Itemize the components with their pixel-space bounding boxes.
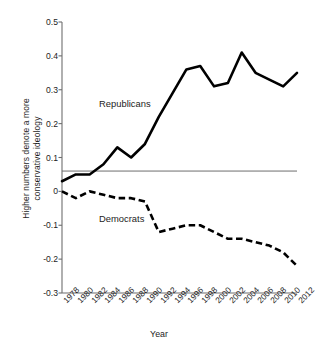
x-axis-tick-labels: 1978198019821984198619881990199219941996… [0,0,318,348]
series-label-republicans: Republicans [99,98,151,109]
chart-container: Higher numbers denote a more conservativ… [0,0,318,348]
series-label-democrats: Democrats [99,213,144,224]
x-axis-title: Year [0,329,318,339]
